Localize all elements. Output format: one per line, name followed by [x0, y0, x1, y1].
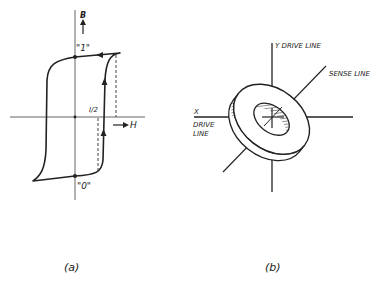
state-zero-label: "0" [77, 181, 91, 191]
top-direction-arrow-icon [96, 52, 103, 58]
diagram-canvas: B H "1" "0" I/2 (a) Y DRIVE L [0, 0, 392, 283]
toroid-figure: Y DRIVE LINE SENSE LINE X DRIVE LINE (b) [193, 42, 370, 274]
x-drive-label-2: LINE [193, 130, 209, 138]
h-arrowhead-icon [123, 122, 129, 128]
x-label: X [193, 108, 199, 116]
state-zero-dot [73, 174, 77, 178]
hysteresis-figure: B H "1" "0" I/2 (a) [10, 10, 145, 274]
right-upper-arrow-icon [102, 78, 108, 85]
y-drive-line-label: Y DRIVE LINE [275, 42, 321, 50]
state-one-label: "1" [76, 43, 90, 53]
caption-a: (a) [64, 261, 79, 274]
x-drive-label-1: DRIVE [193, 121, 215, 129]
right-lower-arrow-icon [101, 129, 107, 136]
sense-line-label: SENSE LINE [329, 70, 370, 78]
state-one-dot [73, 55, 77, 59]
half-current-label: I/2 [89, 106, 98, 114]
b-axis-label: B [80, 11, 86, 20]
caption-b: (b) [265, 261, 281, 274]
h-axis-label: H [130, 120, 137, 130]
origin-dot [74, 116, 77, 119]
